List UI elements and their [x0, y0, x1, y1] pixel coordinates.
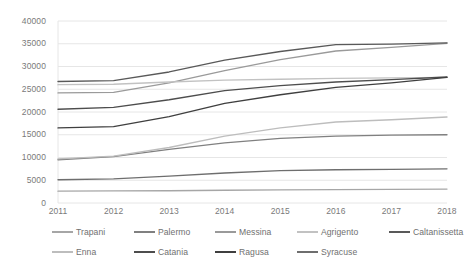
legend-item-catania[interactable]: Catania — [134, 243, 188, 261]
legend-swatch-icon — [134, 231, 155, 233]
legend-swatch-icon — [215, 231, 236, 233]
series-line-catania — [58, 77, 447, 109]
y-tick-label: 10000 — [0, 152, 46, 162]
series-line-enna — [58, 117, 447, 159]
legend-item-agrigento[interactable]: Agrigento — [297, 223, 358, 241]
series-line-caltanissetta — [58, 43, 447, 82]
legend-label: Ragusa — [239, 247, 269, 257]
x-tick-label: 2011 — [36, 206, 80, 216]
y-tick-label: 25000 — [0, 84, 46, 94]
y-tick-label: 30000 — [0, 61, 46, 71]
y-tick-label: 35000 — [0, 38, 46, 48]
legend-item-caltanissetta[interactable]: Caltanissetta — [389, 223, 463, 241]
y-tick-label: 20000 — [0, 107, 46, 117]
y-tick-label: 15000 — [0, 129, 46, 139]
legend-swatch-icon — [52, 251, 73, 253]
series-lines — [58, 43, 447, 191]
y-tick-label: 40000 — [0, 16, 46, 26]
x-tick-label: 2013 — [147, 206, 191, 216]
legend-swatch-icon — [389, 231, 410, 233]
legend-label: Catania — [158, 247, 188, 257]
y-tick-label: 5000 — [0, 175, 46, 185]
legend-label: Trapani — [76, 227, 105, 237]
legend-label: Palermo — [158, 227, 190, 237]
legend-item-trapani[interactable]: Trapani — [52, 223, 105, 241]
legend-item-palermo[interactable]: Palermo — [134, 223, 190, 241]
series-line-messina — [58, 43, 447, 93]
legend-swatch-icon — [134, 251, 155, 253]
legend-item-ragusa[interactable]: Ragusa — [215, 243, 269, 261]
gridlines — [58, 21, 447, 203]
chart-legend: TrapaniPalermoMessinaAgrigentoCaltanisse… — [52, 223, 452, 269]
legend-swatch-icon — [297, 251, 318, 253]
legend-swatch-icon — [52, 231, 73, 233]
x-tick-label: 2014 — [203, 206, 247, 216]
legend-swatch-icon — [297, 231, 318, 233]
series-line-trapani — [58, 189, 447, 191]
x-tick-label: 2018 — [425, 206, 468, 216]
legend-label: Enna — [76, 247, 96, 257]
legend-swatch-icon — [215, 251, 236, 253]
legend-item-syracuse[interactable]: Syracuse — [297, 243, 357, 261]
legend-label: Messina — [239, 227, 271, 237]
x-tick-label: 2012 — [92, 206, 136, 216]
x-tick-label: 2015 — [258, 206, 302, 216]
x-tick-label: 2016 — [314, 206, 358, 216]
legend-label: Agrigento — [321, 227, 358, 237]
legend-item-messina[interactable]: Messina — [215, 223, 271, 241]
legend-label: Caltanissetta — [413, 227, 463, 237]
legend-item-enna[interactable]: Enna — [52, 243, 96, 261]
legend-row: EnnaCataniaRagusaSyracuse — [52, 243, 452, 261]
x-tick-label: 2017 — [369, 206, 413, 216]
legend-row: TrapaniPalermoMessinaAgrigentoCaltanisse… — [52, 223, 452, 241]
legend-label: Syracuse — [321, 247, 357, 257]
series-line-syracuse — [58, 169, 447, 180]
